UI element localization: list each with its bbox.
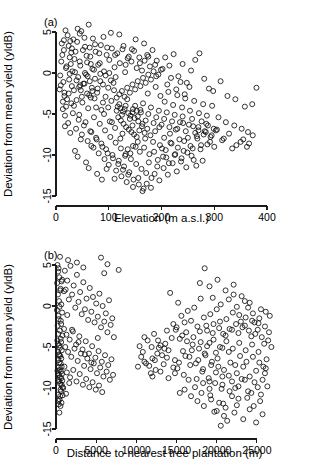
data-point — [87, 79, 92, 84]
data-point — [82, 35, 87, 40]
data-point — [190, 342, 195, 347]
data-point — [234, 403, 239, 408]
data-point — [67, 381, 72, 386]
data-point — [257, 316, 262, 321]
data-point — [262, 324, 267, 329]
data-point — [152, 171, 157, 176]
data-point — [134, 162, 139, 167]
x-axis-title: Elevation (m a.s.l.) — [114, 212, 209, 224]
data-point — [65, 278, 70, 283]
data-point — [189, 318, 194, 323]
data-point — [234, 371, 239, 376]
data-point — [189, 394, 194, 399]
data-point — [116, 158, 121, 163]
data-point — [170, 161, 175, 166]
data-point — [263, 309, 268, 314]
data-point — [191, 124, 196, 129]
data-point — [119, 89, 124, 94]
data-point — [250, 311, 255, 316]
data-point — [181, 372, 186, 377]
data-point — [74, 379, 79, 384]
data-point — [258, 392, 263, 397]
data-point — [237, 340, 242, 345]
data-point — [108, 134, 113, 139]
data-point — [201, 102, 206, 107]
data-point — [164, 328, 169, 333]
data-point — [148, 133, 153, 138]
data-point — [232, 123, 237, 128]
y-tick-label: 0 — [41, 303, 53, 309]
data-point — [150, 48, 155, 53]
data-point — [239, 294, 244, 299]
data-point — [174, 169, 179, 174]
data-point — [90, 36, 95, 41]
data-point — [195, 324, 200, 329]
data-point — [180, 349, 185, 354]
data-point — [239, 376, 244, 381]
data-point — [78, 290, 83, 295]
data-point — [182, 320, 187, 325]
data-point — [188, 363, 193, 368]
data-point — [196, 111, 201, 116]
data-point — [151, 69, 156, 74]
data-point — [163, 341, 168, 346]
data-point — [174, 87, 179, 92]
data-point — [176, 360, 181, 365]
data-point — [184, 165, 189, 170]
data-point — [145, 126, 150, 131]
data-point — [100, 82, 105, 87]
data-point — [167, 125, 172, 130]
data-point — [90, 344, 95, 349]
y-tick-label: -10 — [41, 147, 53, 162]
data-point — [262, 371, 267, 376]
data-point — [141, 75, 146, 80]
data-point — [66, 297, 71, 302]
data-point — [86, 317, 91, 322]
data-point — [68, 263, 73, 268]
data-point — [63, 28, 68, 33]
data-point — [176, 300, 181, 305]
data-point — [155, 157, 160, 162]
data-point — [107, 298, 112, 303]
data-point — [207, 379, 212, 384]
data-point — [255, 327, 260, 332]
data-point — [104, 52, 109, 57]
data-point — [250, 102, 255, 107]
data-point — [100, 390, 105, 395]
data-point — [231, 282, 236, 287]
data-point — [104, 166, 109, 171]
data-point — [158, 93, 163, 98]
data-point — [112, 176, 117, 181]
data-point — [114, 95, 119, 100]
data-point — [180, 114, 185, 119]
data-point — [144, 181, 149, 186]
data-point — [94, 371, 99, 376]
data-point — [246, 130, 251, 135]
data-point — [130, 123, 135, 128]
y-tick-label: 0 — [41, 70, 53, 76]
data-point — [167, 63, 172, 68]
data-point — [91, 67, 96, 72]
data-point — [244, 359, 249, 364]
data-point — [80, 100, 85, 105]
data-point — [129, 59, 134, 64]
data-point — [198, 296, 203, 301]
data-point — [169, 335, 174, 340]
data-point — [79, 94, 84, 99]
data-point — [139, 354, 144, 359]
data-point — [133, 37, 138, 42]
data-point — [164, 155, 169, 160]
data-point — [213, 350, 218, 355]
data-point — [137, 61, 142, 66]
data-point — [142, 145, 147, 150]
data-point — [215, 356, 220, 361]
data-point — [254, 420, 259, 425]
data-point — [216, 115, 221, 120]
data-points — [54, 254, 273, 428]
data-point — [102, 271, 107, 276]
data-point — [151, 121, 156, 126]
data-point — [108, 30, 113, 35]
data-point — [260, 412, 265, 417]
data-point — [172, 112, 177, 117]
data-point — [117, 32, 122, 37]
